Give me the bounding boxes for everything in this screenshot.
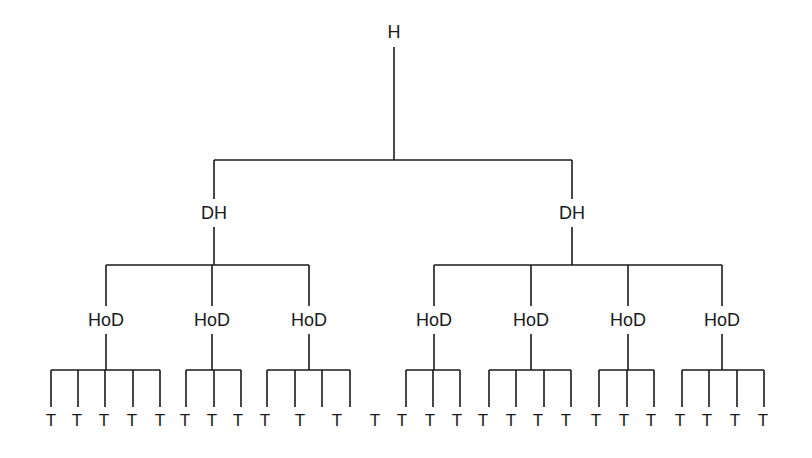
node-teacher: T	[46, 412, 56, 429]
node-teacher: T	[561, 412, 571, 429]
node-teacher: T	[397, 412, 407, 429]
node-teacher: T	[99, 412, 109, 429]
node-teacher: T	[702, 412, 712, 429]
node-head-of-department: HoD	[291, 311, 327, 329]
node-head: H	[388, 23, 401, 41]
node-head-of-department: HoD	[610, 311, 646, 329]
node-head-of-department: HoD	[513, 311, 549, 329]
node-teacher: T	[619, 412, 629, 429]
node-deputy-head: DH	[201, 204, 227, 222]
node-teacher: T	[332, 412, 342, 429]
node-teacher: T	[425, 412, 435, 429]
node-head-of-department: HoD	[194, 311, 230, 329]
node-teacher: T	[452, 412, 462, 429]
node-teacher: T	[675, 412, 685, 429]
node-teacher: T	[207, 412, 217, 429]
node-head-of-department: HoD	[416, 311, 452, 329]
node-teacher: T	[506, 412, 516, 429]
node-teacher: T	[260, 412, 270, 429]
node-teacher: T	[233, 412, 243, 429]
connector-lines	[0, 0, 812, 458]
node-teacher: T	[533, 412, 543, 429]
node-head-of-department: HoD	[704, 311, 740, 329]
node-teacher: T	[127, 412, 137, 429]
node-teacher: T	[478, 412, 488, 429]
node-head-of-department: HoD	[88, 311, 124, 329]
node-teacher: T	[646, 412, 656, 429]
node-teacher: T	[180, 412, 190, 429]
node-teacher: T	[295, 412, 305, 429]
node-deputy-head: DH	[559, 204, 585, 222]
node-teacher: T	[72, 412, 82, 429]
node-teacher: T	[758, 412, 768, 429]
node-teacher: T	[591, 412, 601, 429]
node-teacher: T	[730, 412, 740, 429]
node-teacher: T	[370, 412, 380, 429]
node-teacher: T	[155, 412, 165, 429]
